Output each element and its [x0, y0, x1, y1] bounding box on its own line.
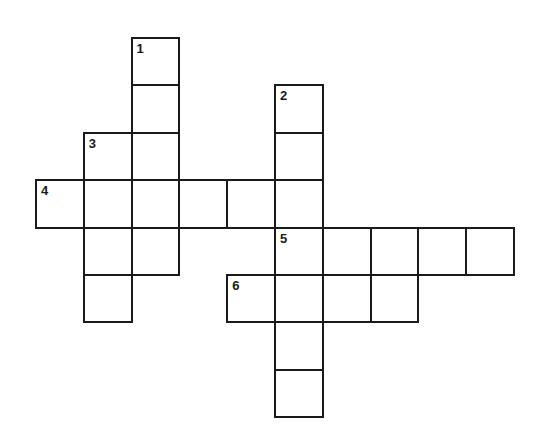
- cell-letter: [133, 39, 179, 84]
- cell-letter: [276, 134, 322, 179]
- cell-letter: [276, 86, 322, 131]
- crossword-cell[interactable]: 1: [131, 37, 181, 86]
- crossword-cell[interactable]: [131, 132, 181, 181]
- crossword-cell[interactable]: [274, 321, 324, 370]
- cell-letter: [133, 86, 179, 131]
- crossword-cell[interactable]: [178, 179, 228, 228]
- cell-letter: [324, 229, 370, 274]
- crossword-cell[interactable]: 6: [226, 274, 276, 323]
- crossword-cell[interactable]: [370, 227, 420, 276]
- cell-letter: [276, 229, 322, 274]
- cell-letter: [180, 181, 226, 226]
- cell-letter: [372, 229, 418, 274]
- crossword-cell[interactable]: [274, 179, 324, 228]
- crossword-cell[interactable]: [83, 179, 133, 228]
- crossword-cell[interactable]: [83, 274, 133, 323]
- cell-letter: [276, 371, 322, 416]
- cell-letter: [276, 276, 322, 321]
- cell-letter: [228, 181, 274, 226]
- crossword-cell[interactable]: [322, 274, 372, 323]
- cell-letter: [85, 276, 131, 321]
- cell-letter: [85, 229, 131, 274]
- crossword-cell[interactable]: [417, 227, 467, 276]
- crossword-cell[interactable]: [465, 227, 515, 276]
- crossword-cell[interactable]: [226, 179, 276, 228]
- crossword-cell[interactable]: 2: [274, 84, 324, 133]
- crossword-cell[interactable]: 3: [83, 132, 133, 181]
- crossword-cell[interactable]: [274, 369, 324, 418]
- cell-letter: [228, 276, 274, 321]
- crossword-cell[interactable]: 4: [35, 179, 85, 228]
- crossword-cell[interactable]: [274, 132, 324, 181]
- cell-letter: [133, 181, 179, 226]
- crossword-cell[interactable]: [322, 227, 372, 276]
- cell-letter: [276, 323, 322, 368]
- crossword-cell[interactable]: [83, 227, 133, 276]
- cell-letter: [467, 229, 513, 274]
- crossword-cell[interactable]: [370, 274, 420, 323]
- cell-letter: [419, 229, 465, 274]
- cell-letter: [37, 181, 83, 226]
- crossword-cell[interactable]: [131, 179, 181, 228]
- crossword-cell[interactable]: 5: [274, 227, 324, 276]
- crossword-cell[interactable]: [131, 84, 181, 133]
- cell-letter: [85, 134, 131, 179]
- cell-letter: [133, 134, 179, 179]
- crossword-cell[interactable]: [274, 274, 324, 323]
- cell-letter: [324, 276, 370, 321]
- cell-letter: [372, 276, 418, 321]
- cell-letter: [133, 229, 179, 274]
- cell-letter: [85, 181, 131, 226]
- crossword-grid: 123456: [0, 0, 548, 435]
- cell-letter: [276, 181, 322, 226]
- crossword-cell[interactable]: [131, 227, 181, 276]
